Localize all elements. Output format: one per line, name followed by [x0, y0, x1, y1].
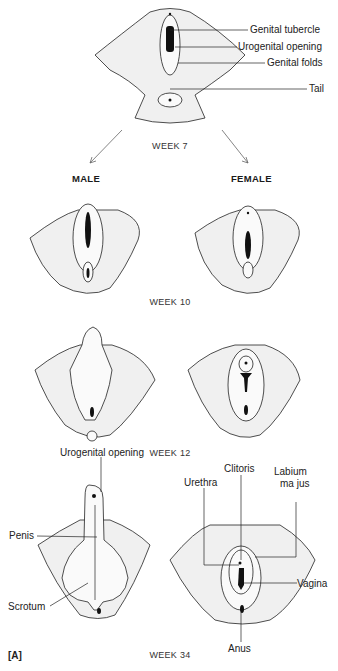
label-vagina: Vagina [297, 578, 327, 589]
week12-female [188, 345, 300, 437]
label-urogenital-opening: Urogenital opening [238, 41, 322, 52]
label-urogenital-opening-male: Urogenital opening [60, 447, 144, 458]
label-genital-tubercle: Genital tubercle [250, 24, 320, 35]
stage-label-week10: WEEK 10 [140, 297, 200, 307]
label-scrotum: Scrotum [8, 601, 45, 612]
column-heading-female: FEMALE [231, 173, 272, 184]
stage-label-week34: WEEK 34 [140, 650, 200, 660]
column-heading-male: MALE [72, 173, 100, 184]
week10-female [195, 206, 299, 293]
week34-female [170, 525, 315, 624]
stage-label-week7: WEEK 7 [140, 141, 200, 151]
label-labium-majus-line2: ma jus [280, 478, 309, 489]
panel-label: [A] [8, 650, 22, 661]
week12-male [35, 327, 155, 441]
stage-label-week12: WEEK 12 [140, 448, 200, 458]
label-tail: Tail [309, 83, 324, 94]
label-genital-folds: Genital folds [267, 57, 323, 68]
week34-male [38, 485, 150, 619]
label-penis: Penis [9, 530, 34, 541]
label-anus: Anus [228, 643, 251, 654]
label-clitoris: Clitoris [224, 463, 255, 474]
anatomy-drawing [0, 0, 338, 671]
week7-embryo [95, 9, 245, 124]
week10-male [30, 204, 139, 293]
label-urethra: Urethra [184, 477, 217, 488]
label-labium-majus-line1: Labium [274, 466, 307, 477]
